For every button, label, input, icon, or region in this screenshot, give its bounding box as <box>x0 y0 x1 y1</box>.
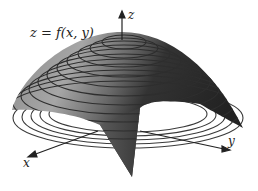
y-axis-label: y <box>228 135 235 147</box>
x-axis-label: x <box>23 157 30 169</box>
equation-label: z = f(x, y) <box>30 26 94 39</box>
z-axis-label: z <box>128 9 134 21</box>
z-axis-arrow-icon <box>119 11 125 18</box>
